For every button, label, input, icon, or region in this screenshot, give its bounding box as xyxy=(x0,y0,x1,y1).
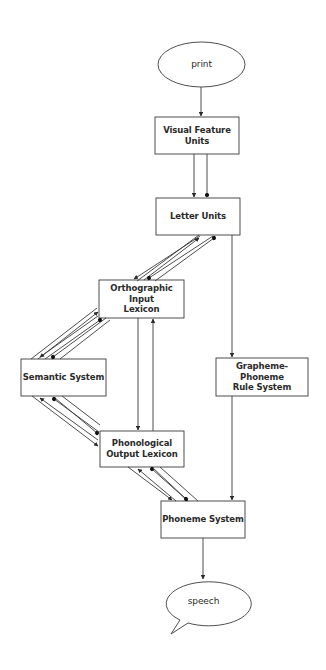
edge-sem-to-phon-excite xyxy=(32,396,98,446)
edge-phon-phoneme-extra xyxy=(160,467,198,501)
phonological-output-lexicon-label: Phonological Output Lexicon xyxy=(100,431,184,467)
edge-phon-to-sem-inhibit xyxy=(54,399,99,432)
phoneme-system-label: Phoneme System xyxy=(161,501,245,538)
semantic-system-label: Semantic System xyxy=(21,359,106,396)
letter-units-label: Letter Units xyxy=(156,198,240,235)
orthographic-input-lexicon-label: Orthographic Input Lexicon xyxy=(99,280,184,318)
print-label: print xyxy=(158,42,245,87)
visual-feature-units-label: Visual Feature Units xyxy=(155,117,239,154)
edge-ortho-to-letter xyxy=(137,235,199,281)
edge-sem-ortho-extra xyxy=(31,308,97,359)
edge-ortho-to-letter-excite xyxy=(144,238,199,280)
diagram-canvas: print Visual Feature Units Letter Units … xyxy=(0,0,326,670)
edge-sem-phon-extra xyxy=(62,396,100,425)
grapheme-phoneme-rule-system-label: Grapheme-Phoneme Rule System xyxy=(216,358,308,396)
speech-label: speech xyxy=(161,580,246,624)
edge-sem-ortho-extra2 xyxy=(60,320,110,359)
edge-letter-to-ortho-inhibit xyxy=(149,236,213,278)
edge-phon-to-phoneme-inhibit xyxy=(153,468,186,499)
edge-ortho-to-sem-inhibit xyxy=(53,318,106,357)
edge-phon-to-sem-excite xyxy=(40,398,98,440)
diagram-graphics xyxy=(0,0,326,670)
edge-sem-to-ortho-inhibit xyxy=(45,320,100,359)
